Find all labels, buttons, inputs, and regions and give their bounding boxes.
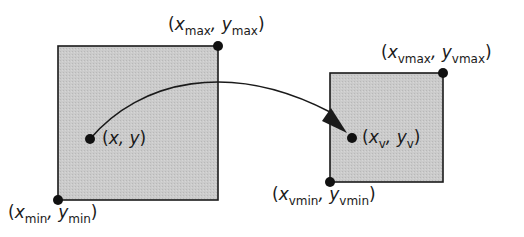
x-var: x	[279, 184, 289, 204]
window-point-label: (x, y)	[102, 130, 146, 147]
x-subscript: min	[25, 212, 48, 226]
paren-open: (	[272, 184, 279, 204]
y-var: y	[397, 127, 407, 147]
viewport-point-label: (xv, yv)	[362, 129, 420, 146]
viewport-point-dot	[347, 133, 357, 143]
y-var: y	[58, 202, 68, 222]
window-min-label: (xmin, ymin)	[8, 204, 98, 221]
y-subscript: v	[407, 137, 414, 151]
paren-close: )	[140, 128, 147, 148]
viewport-max-label: (xvmax, yvmax)	[381, 44, 492, 61]
x-var: x	[15, 202, 25, 222]
paren-open: (	[8, 202, 15, 222]
paren-close: )	[91, 202, 98, 222]
x-subscript: vmax	[398, 52, 431, 66]
x-var: x	[369, 127, 379, 147]
separator: ,	[211, 14, 222, 34]
window-max-label: (xmax, ymax)	[168, 16, 265, 33]
paren-close: )	[414, 127, 421, 147]
paren-close: )	[258, 14, 265, 34]
y-var: y	[130, 128, 140, 148]
paren-open: (	[102, 128, 109, 148]
x-subscript: v	[379, 137, 386, 151]
y-var: y	[329, 184, 339, 204]
x-subscript: max	[185, 24, 211, 38]
separator: ,	[431, 42, 442, 62]
y-var: y	[442, 42, 452, 62]
viewport-min-label: (xvmin, yvmin)	[272, 186, 376, 203]
x-var: x	[109, 128, 119, 148]
separator: ,	[318, 184, 329, 204]
paren-close: )	[369, 184, 376, 204]
separator: ,	[119, 128, 130, 148]
viewport-max-corner-dot	[438, 68, 448, 78]
diagram-canvas	[0, 0, 524, 237]
y-subscript: min	[68, 212, 91, 226]
separator: ,	[47, 202, 58, 222]
y-subscript: vmax	[452, 52, 485, 66]
y-subscript: vmin	[339, 194, 369, 208]
x-var: x	[175, 14, 185, 34]
paren-open: (	[362, 127, 369, 147]
y-var: y	[222, 14, 232, 34]
y-subscript: max	[232, 24, 258, 38]
paren-open: (	[381, 42, 388, 62]
window-rect	[58, 46, 218, 200]
separator: ,	[386, 127, 397, 147]
paren-open: (	[168, 14, 175, 34]
window-point-dot	[85, 134, 95, 144]
paren-close: )	[485, 42, 492, 62]
window-max-corner-dot	[213, 41, 223, 51]
x-var: x	[388, 42, 398, 62]
x-subscript: vmin	[289, 194, 319, 208]
